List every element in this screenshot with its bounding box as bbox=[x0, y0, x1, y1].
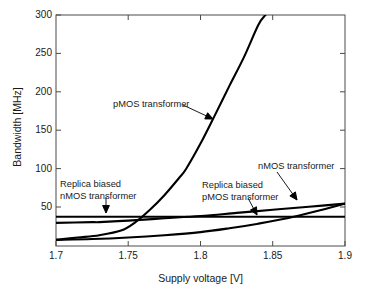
series-line-pmos-transformer bbox=[56, 15, 266, 240]
annotation-pmos-transformer: pMOS transformer bbox=[113, 99, 189, 111]
y-axis-title: Bandwidth [MHz] bbox=[11, 72, 23, 182]
y-tick-label-50: 50 bbox=[18, 201, 52, 212]
y-tick-label-300: 300 bbox=[18, 9, 52, 20]
x-tick-label-1-85: 1.85 bbox=[253, 250, 293, 261]
series-line-nmos-transformer bbox=[56, 204, 345, 223]
y-tick-label-100: 100 bbox=[18, 163, 52, 174]
annotation-line: Replica biased bbox=[60, 179, 136, 191]
annotation-line: pMOS transformer bbox=[202, 192, 278, 204]
y-tick-label-150: 150 bbox=[18, 124, 52, 135]
axes-frame bbox=[56, 15, 345, 246]
annotation-replica-biased-pmos-transformer: Replica biasedpMOS transformer bbox=[202, 180, 278, 203]
annotation-line: pMOS transformer bbox=[113, 99, 189, 111]
annotation-replica-biased-nmos-transformer: Replica biasednMOS transformer bbox=[60, 179, 136, 202]
x-tick-label-1-90: 1.9 bbox=[325, 250, 365, 261]
bandwidth-vs-supply-voltage-chart: 50 100 150 200 250 300 1.7 1.75 1.8 1.85… bbox=[0, 0, 367, 295]
annotation-line: nMOS transformer bbox=[60, 191, 136, 203]
annotation-line: nMOS transformer bbox=[258, 161, 334, 173]
x-axis-title: Supply voltage [V] bbox=[56, 272, 345, 284]
y-tick-label-250: 250 bbox=[18, 47, 52, 58]
x-tick-label-1-70: 1.7 bbox=[36, 250, 76, 261]
x-tick-label-1-80: 1.8 bbox=[181, 250, 221, 261]
annotation-line: Replica biased bbox=[202, 180, 278, 192]
x-tick-label-1-75: 1.75 bbox=[108, 250, 148, 261]
annotation-nmos-transformer: nMOS transformer bbox=[258, 161, 334, 173]
y-tick-label-200: 200 bbox=[18, 86, 52, 97]
x-tick-marks bbox=[56, 15, 345, 246]
